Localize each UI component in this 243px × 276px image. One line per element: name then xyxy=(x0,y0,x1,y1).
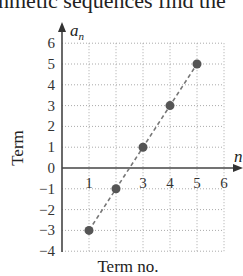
y-axis-arrow-icon xyxy=(58,22,66,32)
x-tick-label: 4 xyxy=(166,175,174,191)
y-axis-name: an xyxy=(70,21,85,42)
x-tick-label: 5 xyxy=(193,175,201,191)
data-point xyxy=(193,60,202,69)
y-tick-label: −3 xyxy=(39,222,55,238)
data-point xyxy=(112,184,121,193)
y-tick-label: −1 xyxy=(39,181,55,197)
y-axis-label: Term xyxy=(8,130,27,166)
y-tick-label: 0 xyxy=(48,160,56,176)
x-axis-name: n xyxy=(234,147,243,166)
data-point xyxy=(166,101,175,110)
y-tick-label: 6 xyxy=(48,35,56,51)
y-tick-label: 1 xyxy=(48,139,56,155)
y-tick-label: −4 xyxy=(39,243,55,259)
y-tick-label: 4 xyxy=(48,77,56,93)
y-tick-label: −2 xyxy=(39,202,55,218)
sequence-chart: 6543210−1−2−3−413456 an n Term Term no. xyxy=(0,0,243,276)
x-tick-label: 3 xyxy=(139,175,147,191)
y-tick-label: 5 xyxy=(48,56,56,72)
y-tick-label: 2 xyxy=(48,118,56,134)
x-tick-label: 6 xyxy=(220,175,228,191)
x-tick-label: 1 xyxy=(85,175,93,191)
axes xyxy=(58,22,243,252)
x-axis-label: Term no. xyxy=(97,257,158,276)
data-point xyxy=(85,226,94,235)
data-point xyxy=(139,143,148,152)
y-tick-label: 3 xyxy=(48,98,56,114)
